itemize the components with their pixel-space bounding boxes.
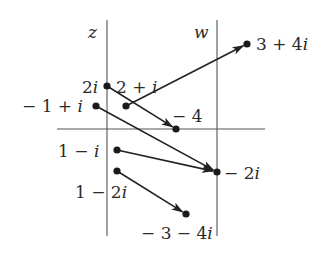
point-label-z-2+i: 2 + i — [116, 77, 157, 97]
point-label-w--2i: − 2i — [224, 163, 260, 183]
mapping-arrow — [117, 150, 213, 171]
w-plane-label: w — [194, 22, 209, 42]
point-z-1-i — [113, 146, 120, 153]
complex-mapping-diagram: z w 2i2 + i− 1 + i1 − i1 − 2i3 + 4i− 4− … — [0, 0, 334, 260]
point-label-z-2i: 2i — [82, 77, 98, 97]
z-plane-label: z — [87, 22, 98, 42]
point-label-w--4: − 4 — [172, 106, 202, 126]
point-w-3+4i — [243, 40, 250, 47]
point-z-2+i — [122, 102, 129, 109]
point-label-z-1-i: 1 − i — [58, 141, 99, 161]
point-w--2i — [213, 168, 220, 175]
point-z--1+i — [92, 102, 99, 109]
point-label-w-3+4i: 3 + 4i — [256, 34, 308, 54]
point-z-1-2i — [113, 167, 120, 174]
axes — [57, 20, 265, 236]
point-z-2i — [103, 82, 110, 89]
point-label-z--1+i: − 1 + i — [22, 96, 83, 116]
point-w--3-4i — [182, 210, 189, 217]
point-label-w--3-4i: − 3 − 4i — [141, 223, 213, 243]
labels: z w 2i2 + i− 1 + i1 − i1 − 2i3 + 4i− 4− … — [22, 22, 308, 243]
point-label-z-1-2i: 1 − 2i — [75, 182, 127, 202]
point-w--4 — [172, 125, 179, 132]
